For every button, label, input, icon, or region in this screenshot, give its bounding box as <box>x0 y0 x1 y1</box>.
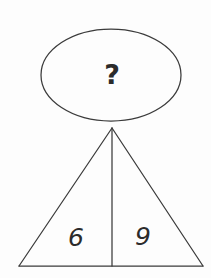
triangle-left-segment-label: 6 <box>68 223 84 252</box>
diagram-canvas: ? 6 9 <box>0 0 211 278</box>
unknown-question-mark-label: ? <box>104 59 120 90</box>
puzzle-diagram: ? 6 9 <box>0 0 211 278</box>
triangle-left-edge <box>19 128 112 266</box>
triangle-right-segment-label: 9 <box>135 222 151 251</box>
triangle-right-edge <box>112 128 203 266</box>
